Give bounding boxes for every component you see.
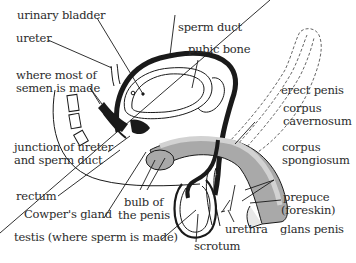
label-urethra: urethra [225,223,268,236]
label-erect-penis: erect penis [281,84,344,97]
label-prepuce-line2: (foreskin) [281,204,335,217]
label-corpus-spongiosum-line2: spongiosum [282,154,350,167]
label-ureter: ureter [16,32,51,45]
label-junction-line2: and sperm duct [14,154,102,167]
label-pubic-bone: pubic bone [188,43,250,56]
label-where-semen-line2: semen is made [16,82,100,95]
label-corpus-cavernosum-line2: cavernosum [283,115,352,128]
label-glans-penis: glans penis [280,223,344,236]
urinary-bladder [124,68,212,119]
label-bulb-line2: the penis [118,209,170,222]
rectum-spine [53,90,200,186]
label-cowpers-gland: Cowper's gland [24,208,112,221]
label-sperm-duct: sperm duct [178,21,242,34]
label-rectum: rectum [16,190,56,203]
ureter [111,64,120,86]
label-scrotum: scrotum [194,240,240,253]
label-urinary-bladder: urinary bladder [17,9,105,22]
label-testis: testis (where sperm is made) [14,231,178,244]
